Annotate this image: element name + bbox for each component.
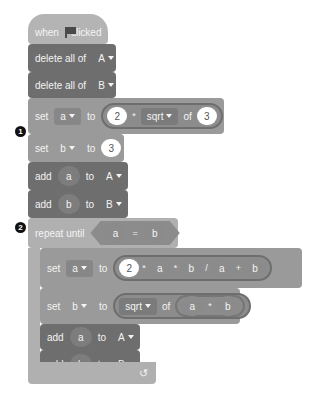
delete-all-label: delete all of [35, 80, 86, 91]
number-input[interactable]: 3 [101, 139, 121, 157]
set-label: set [35, 143, 48, 154]
number-input[interactable]: 2 [107, 107, 127, 125]
variable-reporter-a[interactable]: a [181, 296, 203, 316]
divide-symbol: / [205, 263, 208, 273]
chevron-down-icon [69, 146, 75, 150]
divide-operator[interactable]: 2 * a * b / a + b [113, 255, 272, 281]
to-label: to [87, 111, 95, 122]
when-flag-clicked-block[interactable]: when clicked [28, 14, 108, 44]
set-a-block[interactable]: set a to 2 * sqrt of 3 [28, 98, 224, 134]
repeat-until-label: repeat until [35, 228, 84, 239]
number-input[interactable]: 2 [119, 259, 139, 277]
add-b-to-list-block[interactable]: add b to B [28, 190, 128, 218]
list-dropdown-a[interactable]: A [92, 50, 120, 67]
variable-reporter-a[interactable]: a [58, 166, 80, 186]
to-label: to [87, 143, 95, 154]
variable-dropdown-b[interactable]: b [54, 140, 81, 157]
math-function-dropdown[interactable]: sqrt [119, 298, 157, 315]
variable-dropdown-a[interactable]: a [54, 108, 81, 125]
multiply-symbol: * [174, 263, 178, 273]
chevron-down-icon [108, 83, 114, 87]
chevron-down-icon [166, 114, 172, 118]
add-label: add [47, 332, 64, 343]
delete-all-of-a-block[interactable]: delete all of A [28, 44, 116, 72]
chevron-down-icon [116, 202, 122, 206]
add-label: add [35, 199, 52, 210]
chevron-down-icon [145, 304, 151, 308]
chevron-down-icon [69, 114, 75, 118]
repeat-until-block[interactable]: repeat until a = b [28, 218, 178, 248]
chevron-down-icon [81, 304, 87, 308]
multiply-symbol: * [208, 301, 212, 311]
variable-reporter-b[interactable]: b [180, 258, 202, 278]
multiply-operator[interactable]: 2 * sqrt of 3 [101, 103, 223, 129]
variable-dropdown-a[interactable]: a [66, 260, 93, 277]
annotation-marker-2: 2 [15, 222, 26, 233]
to-label: to [86, 199, 94, 210]
list-dropdown-a[interactable]: A [112, 329, 140, 346]
repeat-loop-footer: ↺ [28, 362, 156, 384]
when-label: when [35, 27, 59, 38]
set-b-block[interactable]: set b to 3 [28, 134, 124, 162]
variable-reporter-b[interactable]: b [217, 296, 239, 316]
list-dropdown-b[interactable]: B [92, 77, 120, 94]
annotation-marker-1: 1 [15, 126, 26, 137]
equals-condition[interactable]: a = b [90, 221, 179, 245]
of-label: of [162, 301, 170, 312]
set-label: set [35, 111, 48, 122]
to-label: to [98, 332, 106, 343]
variable-reporter-b[interactable]: b [244, 258, 266, 278]
to-label: to [86, 171, 94, 182]
multiply-symbol: * [132, 111, 136, 121]
set-b-loop-block[interactable]: set b to sqrt of a * b [40, 288, 240, 324]
add-a-to-list-block[interactable]: add a to A [28, 162, 128, 190]
number-input[interactable]: 3 [197, 107, 217, 125]
list-dropdown-b[interactable]: B [100, 196, 128, 213]
add-a-to-list-loop-block[interactable]: add a to A [40, 324, 140, 350]
to-label: to [99, 263, 107, 274]
chevron-down-icon [128, 335, 134, 339]
to-label: to [99, 301, 107, 312]
chevron-down-icon [116, 174, 122, 178]
variable-reporter-a[interactable]: a [70, 327, 92, 347]
variable-reporter-b[interactable]: b [144, 223, 166, 243]
of-label: of [183, 111, 191, 122]
delete-all-label: delete all of [35, 53, 86, 64]
add-label: add [35, 171, 52, 182]
loop-arrow-icon: ↺ [139, 367, 148, 380]
variable-reporter-a[interactable]: a [149, 258, 171, 278]
set-a-loop-block[interactable]: set a to 2 * a * b / a + b [40, 248, 302, 288]
math-function-operator[interactable]: sqrt of a * b [113, 293, 251, 319]
variable-dropdown-b[interactable]: b [66, 298, 93, 315]
math-function-dropdown[interactable]: sqrt [141, 108, 179, 125]
set-label: set [47, 301, 60, 312]
list-dropdown-a[interactable]: A [100, 168, 128, 185]
equals-symbol: = [132, 228, 137, 238]
delete-all-of-b-block[interactable]: delete all of B [28, 72, 116, 98]
chevron-down-icon [81, 266, 87, 270]
chevron-down-icon [108, 56, 114, 60]
multiply-operator[interactable]: a * b [175, 295, 245, 317]
multiply-symbol: * [142, 263, 146, 273]
variable-reporter-a[interactable]: a [104, 223, 126, 243]
variable-reporter-b[interactable]: b [58, 194, 80, 214]
variable-reporter-a[interactable]: a [211, 258, 233, 278]
plus-symbol: + [236, 263, 241, 273]
set-label: set [47, 263, 60, 274]
repeat-loop-arm [28, 248, 40, 362]
